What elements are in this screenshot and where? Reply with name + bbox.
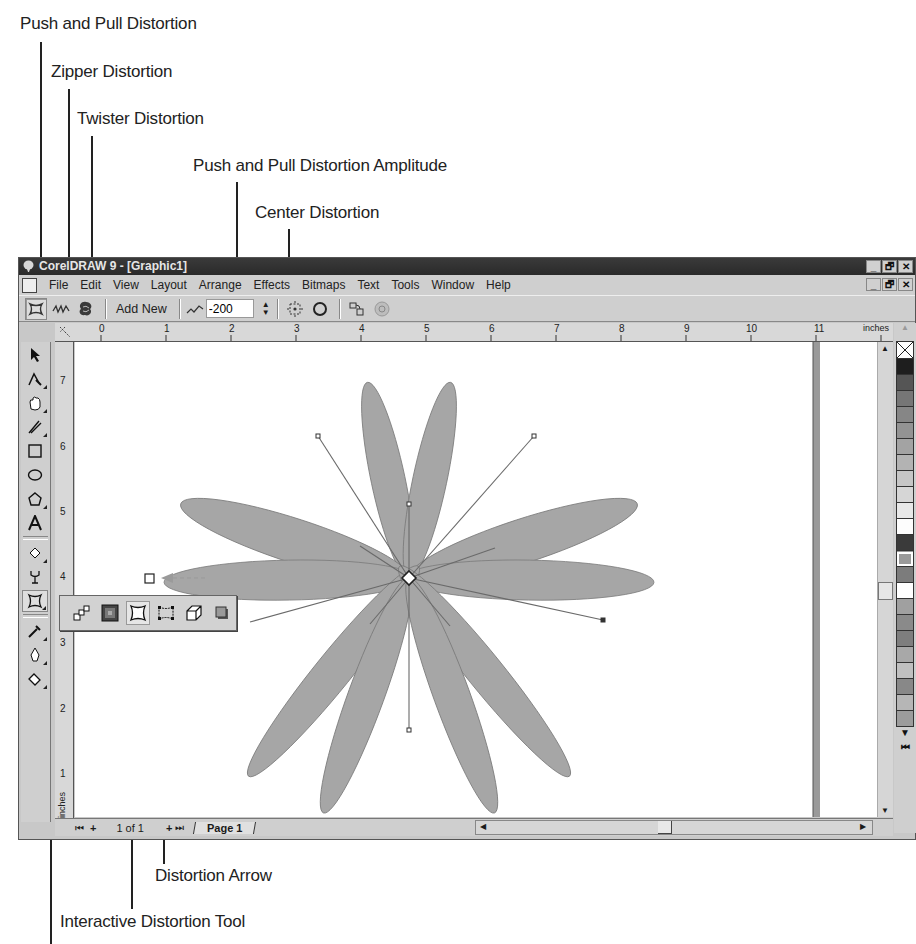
color-swatch[interactable] — [896, 423, 914, 439]
minimize-button[interactable]: _ — [866, 260, 881, 273]
page-tab[interactable]: Page 1 — [193, 822, 257, 834]
document-icon[interactable] — [22, 278, 37, 293]
callout-interactive-distortion-tool: Interactive Distortion Tool — [60, 912, 245, 932]
rectangle-tool[interactable] — [22, 440, 48, 462]
color-swatch[interactable] — [896, 663, 914, 679]
doc-close-button[interactable]: ✕ — [898, 278, 913, 291]
interactive-extrude-tool[interactable] — [182, 601, 206, 625]
menu-view[interactable]: View — [107, 278, 145, 292]
menu-effects[interactable]: Effects — [248, 278, 296, 292]
color-swatch[interactable] — [896, 391, 914, 407]
ellipse-tool[interactable] — [22, 464, 48, 486]
menu-tools[interactable]: Tools — [385, 278, 425, 292]
interactive-blend-tool[interactable] — [70, 601, 94, 625]
menu-file[interactable]: File — [43, 278, 74, 292]
color-swatch[interactable] — [896, 583, 914, 599]
color-swatch[interactable] — [896, 519, 914, 535]
amplitude-spinner[interactable]: ▲ ▼ — [260, 299, 272, 318]
interactive-transparency-tool[interactable] — [22, 566, 48, 588]
center-distortion-button[interactable] — [284, 298, 306, 320]
outline-tool[interactable] — [22, 644, 48, 666]
zipper-distortion-button[interactable] — [50, 298, 72, 320]
interactive-contour-tool[interactable] — [98, 601, 122, 625]
vertical-scrollbar[interactable]: ▲ ▼ — [877, 342, 893, 817]
palette-end-icon[interactable]: ⏮ — [894, 741, 916, 755]
color-swatch[interactable] — [896, 695, 914, 711]
extrude-cube-icon — [185, 604, 203, 622]
drawing-canvas[interactable] — [75, 342, 877, 817]
horizontal-scroll-thumb[interactable] — [658, 821, 672, 834]
color-swatch[interactable] — [896, 375, 914, 391]
copy-distortion-properties-button[interactable] — [346, 298, 368, 320]
push-pull-distortion-button[interactable] — [25, 298, 47, 320]
color-swatch[interactable] — [896, 647, 914, 663]
interactive-envelope-tool[interactable] — [154, 601, 178, 625]
add-new-button[interactable]: Add New — [112, 298, 171, 320]
color-swatch[interactable] — [896, 455, 914, 471]
pick-tool[interactable] — [22, 344, 48, 366]
convert-to-curves-button[interactable] — [309, 298, 331, 320]
vertical-ruler[interactable]: 7 6 5 4 3 2 1 inches — [55, 342, 74, 818]
scroll-up-icon[interactable]: ▲ — [881, 344, 889, 353]
contour-icon — [101, 604, 119, 622]
twister-distortion-button[interactable] — [75, 298, 97, 320]
color-swatch[interactable] — [896, 551, 914, 567]
freehand-tool[interactable] — [22, 416, 48, 438]
color-swatch[interactable] — [896, 407, 914, 423]
color-swatch[interactable] — [896, 503, 914, 519]
eyedropper-tool[interactable] — [22, 620, 48, 642]
vertical-scroll-thumb[interactable] — [878, 582, 893, 600]
restore-button[interactable]: 🗗 — [882, 260, 897, 273]
scroll-right-icon[interactable]: ▶ — [860, 822, 866, 831]
spin-down-icon[interactable]: ▼ — [262, 309, 270, 317]
color-swatch[interactable] — [896, 599, 914, 615]
zoom-pan-tool[interactable] — [22, 392, 48, 414]
menu-layout[interactable]: Layout — [145, 278, 193, 292]
interactive-distortion-tool[interactable] — [22, 590, 48, 612]
horizontal-ruler[interactable]: 0 1 2 3 4 5 6 7 8 9 10 11 inches — [55, 323, 893, 342]
color-swatch[interactable] — [896, 631, 914, 647]
color-swatch[interactable] — [896, 487, 914, 503]
menu-help[interactable]: Help — [480, 278, 517, 292]
color-swatch[interactable] — [896, 711, 914, 727]
interactive-fill-tool[interactable] — [22, 542, 48, 564]
color-swatch[interactable] — [896, 535, 914, 551]
polygon-tool[interactable] — [22, 488, 48, 510]
color-swatch[interactable] — [896, 471, 914, 487]
doc-restore-button[interactable]: 🗗 — [882, 278, 897, 291]
last-page-icon[interactable]: ⏭ — [175, 822, 184, 834]
menu-text[interactable]: Text — [351, 278, 385, 292]
no-color-swatch[interactable] — [896, 341, 914, 359]
ruler-tick: 2 — [60, 703, 66, 714]
color-swatch[interactable] — [896, 567, 914, 583]
palette-scroll-down-icon[interactable]: ▼ — [894, 727, 916, 741]
scroll-down-icon[interactable]: ▼ — [881, 806, 889, 815]
palette-scroll-up-icon[interactable]: ▲ — [894, 323, 916, 341]
first-page-icon[interactable]: ⏮ — [75, 822, 84, 834]
color-swatch[interactable] — [896, 615, 914, 631]
text-tool[interactable] — [22, 512, 48, 534]
ruler-tick: 4 — [359, 323, 365, 334]
close-button[interactable]: ✕ — [898, 260, 913, 273]
add-page-after-button[interactable]: + — [166, 822, 172, 834]
color-swatch[interactable] — [896, 439, 914, 455]
interactive-drop-shadow-tool[interactable] — [210, 601, 234, 625]
interactive-distortion-flyout-button[interactable] — [126, 601, 150, 625]
doc-minimize-button[interactable]: _ — [866, 278, 881, 291]
add-page-before-button[interactable]: + — [90, 822, 96, 834]
ruler-tick: 5 — [424, 323, 430, 334]
scroll-left-icon[interactable]: ◀ — [480, 822, 486, 831]
clear-distortion-button[interactable] — [371, 298, 393, 320]
amplitude-input[interactable] — [206, 299, 254, 318]
color-swatch[interactable] — [896, 359, 914, 375]
fill-tool[interactable] — [22, 668, 48, 690]
shape-tool[interactable] — [22, 368, 48, 390]
color-swatch[interactable] — [896, 679, 914, 695]
ruler-tick: 6 — [60, 441, 66, 452]
menu-arrange[interactable]: Arrange — [193, 278, 248, 292]
horizontal-scrollbar[interactable]: ◀ ▶ — [475, 820, 873, 835]
menu-window[interactable]: Window — [425, 278, 480, 292]
menu-edit[interactable]: Edit — [74, 278, 107, 292]
distorted-flower-graphic[interactable] — [75, 342, 877, 817]
menu-bitmaps[interactable]: Bitmaps — [296, 278, 351, 292]
